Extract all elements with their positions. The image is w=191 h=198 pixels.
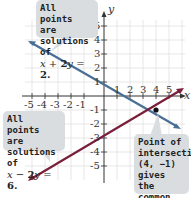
callout-line: solutions of	[7, 147, 61, 169]
y-tick-label: -5	[90, 160, 100, 171]
x-tick-label: -4	[37, 99, 47, 110]
x-tick-label: 2	[127, 84, 133, 95]
callout-line: Point of	[138, 137, 185, 148]
right-callout: Point of intersection (4, −1) gives the …	[134, 134, 189, 194]
equation: x + 2y = 2.	[40, 58, 94, 80]
x-tick-label: 4	[153, 84, 159, 95]
top-callout: All points are solutions of x + 2y = 2.	[36, 0, 98, 38]
y-tick-label: 2	[94, 62, 100, 73]
callout-line: solutions of	[40, 36, 94, 58]
x-tick-label: -5	[24, 99, 34, 110]
x-tick-label: 1	[114, 84, 120, 95]
intersection-point	[153, 107, 158, 112]
callout-line: the common	[138, 181, 185, 198]
left-callout: All points are solutions of x − 2y = 6.	[3, 111, 65, 151]
x-tick-label: -3	[50, 99, 60, 110]
callout-line: intersection	[138, 148, 185, 159]
y-tick-label: -2	[90, 118, 100, 129]
equation: x − 2y = 6.	[7, 169, 61, 191]
x-axis-label: x	[184, 89, 190, 102]
callout-line: All points are	[7, 114, 61, 147]
callout-line: All points are	[40, 3, 94, 36]
y-tick-label: -3	[90, 132, 100, 143]
y-tick-label: -4	[90, 146, 100, 157]
y-tick-label: 1	[94, 76, 100, 87]
x-tick-label: 3	[140, 84, 146, 95]
x-tick-label: 5	[166, 84, 172, 95]
y-tick-label: -1	[90, 104, 100, 115]
y-axis-label: y	[108, 3, 114, 16]
callout-line: (4, −1) gives	[138, 159, 185, 181]
y-tick-label: 3	[94, 48, 100, 59]
y-axis-arrow	[102, 11, 107, 17]
x-tick-label: -2	[63, 99, 73, 110]
x-tick-label: -1	[76, 99, 86, 110]
